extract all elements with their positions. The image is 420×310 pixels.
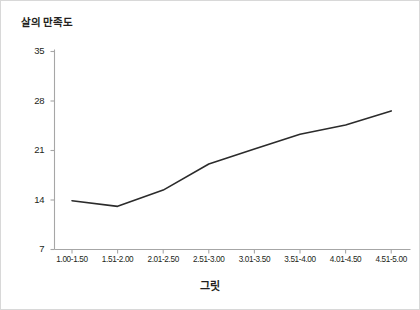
x-axis-tick-label: 2.51-3.00 — [193, 255, 224, 264]
x-axis-tick-label: 3.51-4.00 — [284, 255, 315, 264]
data-series-line — [72, 111, 391, 206]
y-axis-tick-label: 14 — [19, 194, 45, 205]
x-axis-tick-label: 2.01-2.50 — [147, 255, 178, 264]
plot-area: 7142128351.00-1.501.51-2.002.01-2.502.51… — [1, 1, 420, 310]
x-axis-tick-label: 1.00-1.50 — [56, 255, 87, 264]
x-axis-tick-label: 4.51-5.00 — [375, 255, 406, 264]
y-axis-tick-label: 7 — [19, 243, 45, 254]
y-axis-tick-label: 21 — [19, 144, 45, 155]
y-axis-tick-label: 35 — [19, 45, 45, 56]
x-axis-tick-label: 3.01-3.50 — [239, 255, 270, 264]
x-axis-title: 그릿 — [1, 277, 419, 293]
chart-figure: 살의 만족도 7142128351.00-1.501.51-2.002.01-2… — [0, 0, 420, 310]
y-axis-tick-label: 28 — [19, 95, 45, 106]
x-axis-tick-label: 4.01-4.50 — [330, 255, 361, 264]
x-axis-tick-label: 1.51-2.00 — [102, 255, 133, 264]
